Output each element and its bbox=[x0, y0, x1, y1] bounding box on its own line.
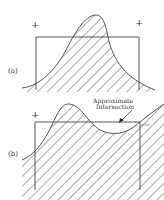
plus-mark-b-left: + bbox=[31, 109, 39, 120]
diagram-canvas: + + (a) + (b) Approximate Intersection bbox=[0, 0, 164, 200]
plus-mark-a-left: + bbox=[31, 19, 39, 30]
panel-b: + (b) Approximate Intersection bbox=[0, 97, 164, 200]
hatched-region-b bbox=[0, 100, 164, 200]
panel-a: + + (a) bbox=[0, 0, 164, 100]
annotation-line-2: Intersection bbox=[96, 103, 134, 110]
panel-label-b: (b) bbox=[8, 150, 18, 158]
plus-mark-a-right: + bbox=[135, 17, 143, 28]
panel-label-a: (a) bbox=[8, 67, 18, 75]
